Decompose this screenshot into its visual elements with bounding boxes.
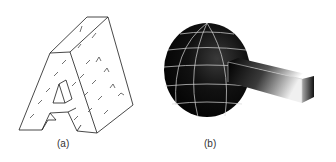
panel-b-sphere-and-bar — [0, 0, 336, 162]
figure: (a) (b) — [0, 0, 336, 162]
caption-a: (a) — [57, 138, 69, 149]
caption-b: (b) — [204, 138, 216, 149]
